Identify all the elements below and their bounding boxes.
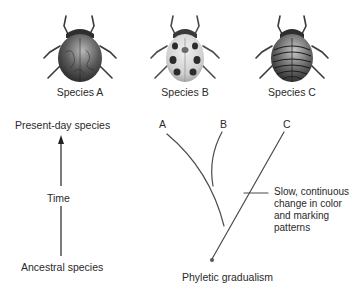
diagram-caption: Phyletic gradualism: [182, 271, 273, 283]
annotation-line: change in color: [274, 198, 349, 210]
branch-label-c: C: [283, 118, 291, 130]
annotation-line: and marking: [274, 210, 349, 222]
root-node: [210, 258, 214, 262]
annotation-line: patterns: [274, 222, 349, 234]
branch-b: [212, 132, 222, 186]
annotation-line: Slow, continuous: [274, 186, 349, 198]
phylogenetic-tree: [0, 0, 360, 296]
branch-label-a: A: [159, 118, 166, 130]
annotation-text: Slow, continuous change in color and mar…: [274, 186, 349, 234]
branch-label-b: B: [220, 118, 227, 130]
